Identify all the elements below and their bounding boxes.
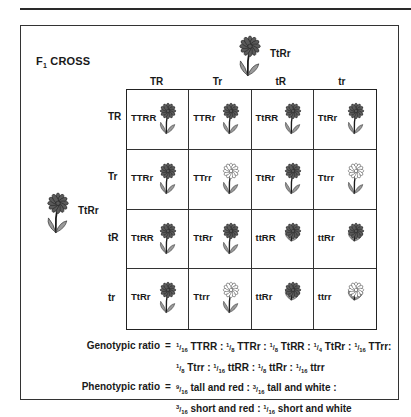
cell-genotype: TTRr [131,172,153,183]
punnett-cell: TTRr [127,150,189,210]
punnett-cell: TtRr [314,90,376,150]
genotypic-ratio-line-1: Genotypic ratio = 1/16 TTRR : 1/8 TTRr :… [78,338,391,359]
genotypic-ratio-values: 1/16 TTRR : 1/8 TTRr : 1/8 TtRR : 1/4 Tt… [176,338,391,359]
red-flower-icon [339,92,373,148]
ratios: Genotypic ratio = 1/16 TTRR : 1/8 TTRr :… [78,338,391,417]
genotypic-ratio-line-2: 1/8 Ttrr : 1/16 ttRR : 1/8 ttRr : 1/16 t… [78,359,391,380]
punnett-cell: ttRr [314,210,376,270]
column-gamete-Tr: Tr [213,76,222,87]
white-flower-icon [339,271,373,327]
cell-genotype: TtRr [131,291,151,302]
phenotypic-ratio-line-2: 3/16 short and red : 1/16 short and whit… [78,400,391,417]
genotypic-ratio-values-cont: 1/8 Ttrr : 1/16 ttRR : 1/8 ttRr : 1/16 t… [176,359,325,380]
punnett-cell: Ttrr [314,150,376,210]
equals-sign: = [160,338,176,359]
column-gamete-tR: tR [276,76,287,87]
punnett-cell: ttrr [314,269,376,329]
equals-sign: = [160,379,176,400]
white-flower-icon [214,271,248,327]
red-flower-icon [214,92,248,148]
white-flower-icon [214,152,248,208]
punnett-cell: TtRr [127,269,189,329]
cell-genotype: TtRr [256,172,276,183]
punnett-cell: ttRR [252,210,314,270]
red-flower-icon [228,28,272,88]
cell-genotype: ttRR [256,232,276,243]
punnett-cell: TtRR [252,90,314,150]
red-flower-icon [151,92,185,148]
cell-genotype: TtRr [193,232,213,243]
red-flower-icon [214,212,248,268]
cell-genotype: ttRr [256,291,273,302]
phenotypic-ratio-values-cont: 3/16 short and red : 1/16 short and whit… [176,400,352,417]
cell-genotype: TtRr [318,112,338,123]
punnett-cell: Ttrr [189,269,251,329]
row-gamete-tR: tR [108,232,119,243]
row-gamete-TR: TR [108,111,121,122]
cell-genotype: Ttrr [193,291,209,302]
red-flower-icon [276,212,310,268]
column-gamete-tr: tr [338,76,345,87]
cell-genotype: TTrr [193,172,211,183]
red-flower-icon [276,152,310,208]
phenotypic-ratio-values: 9/16 tall and red : 3/16 tall and white … [176,379,337,400]
diagram-title: F1 CROSS [36,55,90,69]
red-flower-icon [276,271,310,327]
parent-left-plant: TtRr [36,185,106,245]
red-flower-icon [151,271,185,327]
punnett-cell: TtRr [252,150,314,210]
punnett-cell: TtRR [127,210,189,270]
parent-genotype: TtRr [270,48,291,59]
genotypic-ratio-label: Genotypic ratio [78,338,160,359]
row-gamete-tr: tr [108,292,115,303]
cell-genotype: ttRr [318,232,335,243]
cell-genotype: Ttrr [318,172,334,183]
parent-top-plant: TtRr [228,28,298,88]
red-flower-icon [151,212,185,268]
red-flower-icon [276,92,310,148]
column-gamete-TR: TR [150,76,163,87]
top-rule [20,8,411,10]
punnett-square: TTRR TTRr TtRR TtRr TTRr TTrr TtRr [126,89,377,330]
punnett-cell: TTrr [189,150,251,210]
white-flower-icon [339,152,373,208]
parent-genotype: TtRr [78,205,99,216]
phenotypic-ratio-line-1: Phenotypic ratio = 9/16 tall and red : 3… [78,379,391,400]
red-flower-icon [151,152,185,208]
punnett-cell: TTRR [127,90,189,150]
red-flower-icon [339,212,373,268]
row-gamete-Tr: Tr [108,171,117,182]
cell-genotype: TTRr [193,112,215,123]
red-flower-icon [36,185,80,245]
phenotypic-ratio-label: Phenotypic ratio [78,379,160,400]
punnett-cell: TTRr [189,90,251,150]
punnett-cell: TtRr [189,210,251,270]
cell-genotype: ttrr [318,291,332,302]
punnett-cell: ttRr [252,269,314,329]
